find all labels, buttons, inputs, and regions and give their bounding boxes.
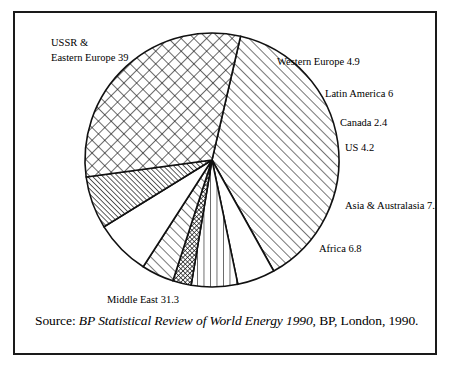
slice-label: Canada 2.4 <box>340 117 388 128</box>
source-suffix: , BP, London, 1990. <box>313 313 419 328</box>
source-caption: Source: BP Statistical Review of World E… <box>35 313 418 329</box>
figure-frame: USSR &Eastern Europe 39Western Europe 4.… <box>13 11 437 355</box>
source-prefix: Source: <box>35 313 76 328</box>
pie-chart-svg: USSR &Eastern Europe 39Western Europe 4.… <box>15 13 435 313</box>
pie-chart: USSR &Eastern Europe 39Western Europe 4.… <box>15 13 435 353</box>
pie-slices-group <box>85 33 339 287</box>
slice-label: Africa 6.8 <box>319 243 362 254</box>
slice-label: USSR & <box>51 37 88 48</box>
source-title: BP Statistical Review of World Energy 19… <box>79 313 313 328</box>
slice-label: Western Europe 4.9 <box>277 56 360 67</box>
slice-label: US 4.2 <box>345 142 374 153</box>
slice-label: Latin America 6 <box>325 88 393 99</box>
slice-label: Middle East 31.3 <box>107 294 179 305</box>
slice-label: Asia & Australasia 7.2 <box>345 200 435 211</box>
slice-label: Eastern Europe 39 <box>51 52 129 63</box>
